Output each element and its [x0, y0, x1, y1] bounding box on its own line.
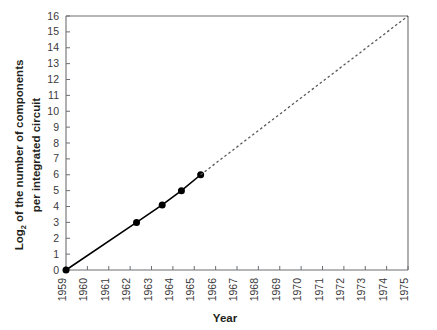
y-axis-title-line2: per integrated circuit [30, 98, 42, 213]
y-tick-label: 4 [53, 200, 59, 212]
y-tick-label: 7 [53, 152, 59, 164]
x-tick-label: 1968 [248, 278, 260, 302]
x-tick-label: 1963 [142, 278, 154, 302]
y-tick-label: 16 [47, 10, 59, 22]
x-tick-label: 1960 [77, 278, 89, 302]
data-point-marker [178, 187, 185, 194]
y-tick-label: 10 [47, 105, 59, 117]
x-tick-label: 1964 [163, 278, 175, 302]
y-tick-label: 15 [47, 25, 59, 37]
svg-text:Log2 of the number of componen: Log2 of the number of components [13, 60, 28, 251]
x-tick-label: 1974 [377, 278, 389, 302]
y-tick-label: 14 [47, 41, 59, 53]
y-tick-label: 12 [47, 73, 59, 85]
data-point-marker [159, 201, 166, 208]
y-axis-title: Log2 of the number of components per int… [13, 60, 42, 251]
x-tick-label: 1969 [270, 278, 282, 302]
x-tick-label: 1966 [206, 278, 218, 302]
x-tick-label: 1962 [120, 278, 132, 302]
x-tick-label: 1972 [334, 278, 346, 302]
x-axis-ticks [66, 266, 408, 270]
x-tick-label: 1961 [99, 278, 111, 302]
x-tick-label: 1965 [184, 278, 196, 302]
x-tick-label: 1971 [313, 278, 325, 302]
y-tick-label: 6 [53, 168, 59, 180]
data-point-marker [133, 219, 140, 226]
data-point-marker [63, 267, 70, 274]
y-tick-label: 9 [53, 121, 59, 133]
moores-law-chart: 012345678910111213141516 195919601961196… [0, 0, 437, 330]
y-tick-label: 8 [53, 137, 59, 149]
y-axis-title-rest: of the number of components [13, 60, 25, 225]
x-tick-label: 1973 [355, 278, 367, 302]
chart-container: 012345678910111213141516 195919601961196… [0, 0, 437, 330]
y-tick-label: 3 [53, 216, 59, 228]
y-axis-tick-labels: 012345678910111213141516 [47, 10, 59, 276]
y-axis-ticks [66, 16, 70, 270]
x-tick-label: 1975 [398, 278, 410, 302]
x-tick-label: 1970 [291, 278, 303, 302]
data-series-layer [63, 16, 409, 274]
x-axis-title: Year [213, 312, 238, 324]
y-tick-label: 0 [53, 264, 59, 276]
y-tick-label: 2 [53, 232, 59, 244]
y-tick-label: 11 [48, 89, 59, 101]
extrapolation-line [201, 16, 408, 175]
y-tick-label: 13 [47, 57, 59, 69]
x-tick-label: 1959 [56, 278, 68, 302]
y-axis-title-log: Log [13, 229, 25, 250]
x-tick-label: 1967 [227, 278, 239, 302]
y-tick-label: 5 [53, 184, 59, 196]
x-axis-tick-labels: 1959196019611962196319641965196619671968… [56, 278, 410, 302]
y-tick-label: 1 [53, 248, 59, 260]
plot-frame [66, 16, 408, 270]
